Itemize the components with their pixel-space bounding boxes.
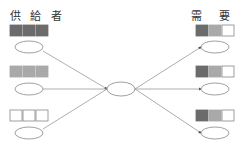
demand-block-2-3	[222, 66, 234, 77]
demand-block-3-2	[209, 110, 221, 121]
supplier-block-1-3	[36, 25, 48, 36]
demand-block-3-1	[196, 110, 208, 121]
demand-node-2	[201, 83, 229, 95]
supplier-node-2	[15, 83, 43, 95]
demand-node-1	[201, 41, 229, 53]
demand-block-1-3	[222, 25, 234, 36]
supplier-block-3-2	[23, 110, 35, 121]
supplier-blocks	[10, 25, 48, 121]
demand-blocks	[196, 25, 234, 121]
supplier-node-3	[15, 127, 43, 139]
line-demand-3	[135, 89, 201, 133]
line-supplier-1	[43, 51, 107, 89]
supplier-block-1-1	[10, 25, 22, 36]
center-node	[107, 82, 135, 96]
supplier-block-2-3	[36, 66, 48, 77]
demand-block-1-2	[209, 25, 221, 36]
line-supplier-3	[43, 89, 107, 129]
demand-block-3-3	[222, 110, 234, 121]
demand-block-2-1	[196, 66, 208, 77]
line-demand-1	[135, 47, 201, 89]
supplier-block-1-2	[23, 25, 35, 36]
demand-block-1-1	[196, 25, 208, 36]
demand-block-2-2	[209, 66, 221, 77]
supplier-block-2-1	[10, 66, 22, 77]
supply-demand-diagram	[0, 0, 245, 150]
demand-node-3	[201, 127, 229, 139]
supplier-block-2-2	[23, 66, 35, 77]
supplier-block-3-3	[36, 110, 48, 121]
supplier-block-3-1	[10, 110, 22, 121]
supplier-node-1	[15, 41, 43, 53]
